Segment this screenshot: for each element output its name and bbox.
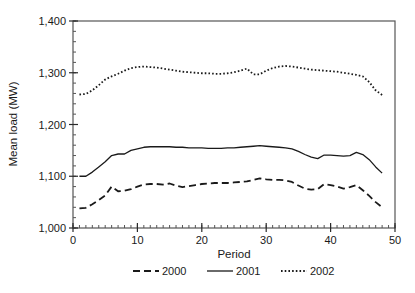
x-axis-tick-labels: 01020304050: [70, 234, 401, 246]
x-tick-label: 0: [70, 234, 76, 246]
y-axis-title: Mean load (MW): [7, 81, 19, 166]
y-tick-label: 1,300: [38, 67, 66, 79]
y-tick-label: 1,000: [38, 222, 66, 234]
x-tick-label: 50: [389, 234, 401, 246]
y-tick-label: 1,400: [38, 15, 66, 27]
x-tick-label: 30: [260, 234, 272, 246]
x-tick-label: 10: [131, 234, 143, 246]
chart-legend: 200020012002: [133, 265, 334, 277]
y-tick-label: 1,100: [38, 170, 66, 182]
legend-label-2002: 2002: [310, 265, 334, 277]
chart-container: 1,0001,1001,2001,3001,400 01020304050 Pe…: [0, 0, 415, 293]
line-chart: 1,0001,1001,2001,3001,400 01020304050 Pe…: [0, 0, 415, 293]
legend-label-2000: 2000: [162, 265, 186, 277]
y-tick-label: 1,200: [38, 119, 66, 131]
x-tick-label: 40: [324, 234, 336, 246]
y-axis-tick-labels: 1,0001,1001,2001,3001,400: [38, 15, 66, 234]
x-tick-label: 20: [196, 234, 208, 246]
legend-label-2001: 2001: [236, 265, 260, 277]
x-axis-title: Period: [217, 248, 250, 260]
plot-frame: [73, 21, 395, 228]
